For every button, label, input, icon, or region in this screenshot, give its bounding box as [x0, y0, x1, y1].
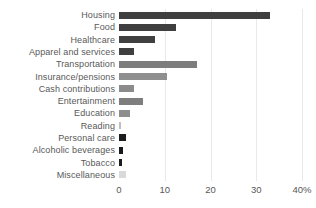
bar-row [119, 46, 302, 58]
bar-food [119, 24, 176, 31]
x-tick-label: 20 [205, 184, 216, 195]
bar-insurance-pensions [119, 73, 167, 80]
bar-reading [119, 122, 121, 129]
bar-row [119, 83, 302, 95]
category-label: Reading [0, 120, 115, 132]
x-tick-label: 30 [251, 184, 262, 195]
bar-row [119, 107, 302, 119]
bar-personal-care [119, 134, 126, 141]
category-label: Healthcare [0, 34, 115, 46]
bar-entertainment [119, 98, 143, 105]
category-label: Entertainment [0, 95, 115, 107]
category-label: Transportation [0, 58, 115, 70]
x-axis: 010203040% [119, 184, 302, 198]
bar-cash-contributions [119, 85, 134, 92]
category-label: Personal care [0, 132, 115, 144]
category-label: Cash contributions [0, 83, 115, 95]
bar-alcoholic-beverages [119, 147, 123, 154]
bar-row [119, 70, 302, 82]
bar-row [119, 156, 302, 168]
bar-row [119, 120, 302, 132]
category-label: Insurance/pensions [0, 70, 115, 82]
category-label: Apparel and services [0, 46, 115, 58]
bar-row [119, 9, 302, 21]
bar-row [119, 144, 302, 156]
bar-housing [119, 12, 270, 19]
bar-education [119, 110, 130, 117]
bar-row [119, 132, 302, 144]
category-label: Miscellaneous [0, 169, 115, 181]
bar-row [119, 169, 302, 181]
category-label: Housing [0, 9, 115, 21]
plot-area [119, 9, 302, 181]
x-tick-label: 10 [159, 184, 170, 195]
category-label: Tobacco [0, 156, 115, 168]
bar-tobacco [119, 159, 122, 166]
bar-apparel-and-services [119, 48, 134, 55]
category-label: Alcoholic beverages [0, 144, 115, 156]
expenditure-bar-chart: HousingFoodHealthcareApparel and service… [0, 0, 316, 208]
bar-row [119, 95, 302, 107]
bar-healthcare [119, 36, 155, 43]
category-labels: HousingFoodHealthcareApparel and service… [0, 9, 115, 181]
x-tick-label: 0 [116, 184, 121, 195]
bar-row [119, 21, 302, 33]
bar-row [119, 34, 302, 46]
bar-row [119, 58, 302, 70]
bar-rows [119, 9, 302, 181]
bar-transportation [119, 61, 197, 68]
x-tick-label: 40% [292, 184, 311, 195]
category-label: Education [0, 107, 115, 119]
bar-miscellaneous [119, 171, 126, 178]
gridline [302, 9, 303, 181]
category-label: Food [0, 21, 115, 33]
